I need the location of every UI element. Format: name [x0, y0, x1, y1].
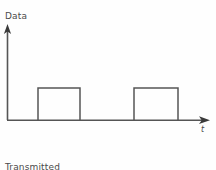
y-axis-label: Data [5, 11, 27, 22]
signal-waveform [38, 88, 178, 120]
waveform-figure: Data t Transmitted signal [0, 0, 216, 170]
caption-cut-off-text [5, 165, 45, 170]
pulse-1 [38, 88, 80, 120]
x-axis-label: t [201, 124, 204, 135]
y-axis [4, 24, 11, 120]
pulse-2 [134, 88, 178, 120]
